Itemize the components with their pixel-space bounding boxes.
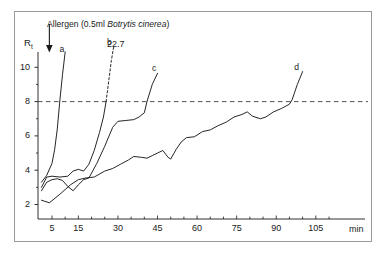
x-tick-label: 105 <box>305 224 327 233</box>
x-tick-label: 45 <box>147 224 169 233</box>
axes-group <box>35 52 366 219</box>
y-tick-label: 4 <box>14 166 30 175</box>
b-extrapolated-value: 22.7 <box>107 40 125 49</box>
series-curves <box>41 45 302 203</box>
x-tick-label: 90 <box>265 224 287 233</box>
y-axis-title: Rt <box>24 38 33 50</box>
series-label-c: c <box>152 64 156 73</box>
y-tick-label: 2 <box>14 200 30 209</box>
y-tick-label: 10 <box>14 63 30 72</box>
series-label-d: d <box>294 63 299 72</box>
chart-canvas <box>0 0 390 255</box>
figure-container: Allergen (0.5ml Botrytis cinerea) Rt 246… <box>0 0 390 255</box>
y-tick-label: 6 <box>14 131 30 140</box>
x-tick-label: 30 <box>107 224 129 233</box>
x-axis-unit-holder: min <box>349 219 364 235</box>
series-label-a: a <box>60 45 65 54</box>
x-tick-label: 60 <box>186 224 208 233</box>
y-tick-label: 8 <box>14 97 30 106</box>
allergen-annotation-label: Allergen (0.5ml Botrytis cinerea) <box>47 20 169 29</box>
x-tick-label: 75 <box>226 224 248 233</box>
x-tick-label: 5 <box>41 224 63 233</box>
x-tick-label: 15 <box>67 224 89 233</box>
x-axis-unit-label: min <box>349 224 364 234</box>
